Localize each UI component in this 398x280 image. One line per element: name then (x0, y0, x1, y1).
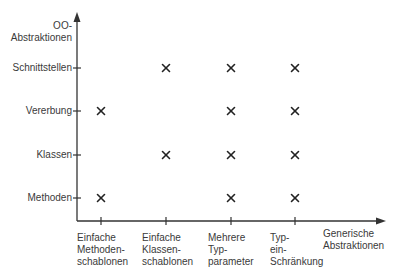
y-axis-title: OO- Abstraktionen (0, 20, 72, 44)
x-label-typeinschraenkung: Typ-ein-Schränkung (270, 232, 323, 268)
y-axis-title-line: OO- (0, 20, 72, 32)
cross-icon (292, 108, 299, 115)
cross-icon (163, 65, 170, 72)
cross-icon (228, 108, 235, 115)
markers (98, 65, 299, 202)
cross-icon (292, 195, 299, 202)
x-label-einfache-methodenschablonen: EinfacheMethoden-schablonen (77, 232, 128, 268)
x-label-einfache-klassenschablonen: EinfacheKlassen-schablonen (142, 232, 193, 268)
y-label-methoden: Methoden (0, 192, 72, 204)
cross-icon (228, 195, 235, 202)
cross-icon (163, 152, 170, 159)
y-label-klassen: Klassen (0, 149, 72, 161)
y-axis-arrow-icon (74, 12, 81, 22)
cross-icon (228, 65, 235, 72)
x-label-mehrere-typparameter: MehrereTyp-parameter (208, 232, 254, 268)
y-axis-title-line: Abstraktionen (0, 32, 72, 44)
cross-icon (292, 152, 299, 159)
x-axis-arrow-icon (376, 218, 386, 225)
y-label-schnittstellen: Schnittstellen (0, 62, 72, 74)
cross-icon (228, 152, 235, 159)
cross-icon (292, 65, 299, 72)
cross-icon (98, 108, 105, 115)
y-label-vererbung: Vererbung (0, 105, 72, 117)
cross-icon (98, 195, 105, 202)
x-axis-title: GenerischeAbstraktionen (323, 228, 384, 252)
